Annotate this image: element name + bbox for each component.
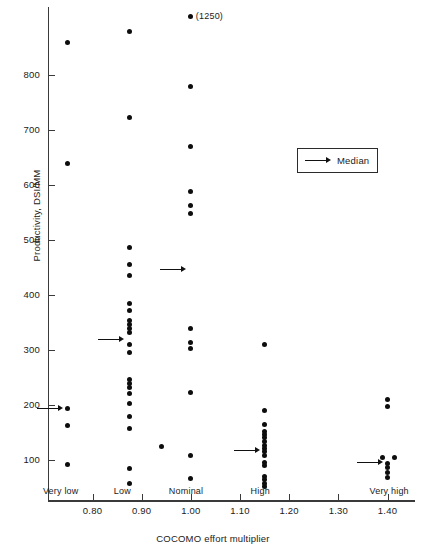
data-point (188, 189, 193, 194)
y-tick-label: 500 (6, 234, 40, 245)
y-tick-mark (49, 295, 55, 296)
data-point (262, 422, 267, 427)
x-tick-mark (338, 494, 339, 500)
median-arrow-very-high (357, 459, 383, 466)
data-point (127, 401, 132, 406)
data-point (127, 350, 132, 355)
y-tick-label: 600 (6, 179, 40, 190)
data-point (188, 346, 193, 351)
data-point (385, 397, 390, 402)
scatter-plot-canvas: Productivity, DSI/MM COCOMO effort multi… (0, 0, 426, 554)
y-tick-label: 300 (6, 344, 40, 355)
data-point (127, 29, 132, 34)
data-point (127, 301, 132, 306)
data-point (385, 470, 390, 475)
data-point (188, 211, 193, 216)
y-tick-label: 400 (6, 289, 40, 300)
y-tick-mark (49, 185, 55, 186)
median-arrow-low (98, 336, 124, 343)
data-point (65, 462, 70, 467)
data-point (65, 406, 70, 411)
data-point (188, 390, 193, 395)
category-label-very-high: Very high (370, 486, 409, 496)
data-point (188, 326, 193, 331)
data-point (127, 481, 132, 486)
data-point (127, 414, 132, 419)
category-label-nominal: Nominal (169, 486, 203, 496)
data-point (127, 342, 132, 347)
x-tick-mark (93, 494, 94, 500)
data-point (188, 340, 193, 345)
data-point (127, 262, 132, 267)
median-arrow-nominal (160, 266, 186, 273)
x-tick-mark (240, 494, 241, 500)
data-point (127, 273, 132, 278)
category-label-low: Low (114, 486, 131, 496)
x-tick-label: 1.10 (220, 505, 260, 516)
x-tick-label: 1.30 (318, 505, 358, 516)
y-tick-mark (49, 350, 55, 351)
data-point (262, 484, 267, 489)
y-tick-mark (49, 75, 55, 76)
data-point (127, 391, 132, 396)
data-point (127, 385, 132, 390)
y-tick-label: 800 (6, 69, 40, 80)
data-point (262, 453, 267, 458)
x-axis-label: COCOMO effort multiplier (0, 533, 426, 544)
data-point (188, 144, 193, 149)
x-tick-label: 0.90 (122, 505, 162, 516)
y-axis-label: Productivity, DSI/MM (31, 136, 42, 296)
y-tick-mark (49, 240, 55, 241)
data-point (127, 308, 132, 313)
data-point (127, 330, 132, 335)
legend-median-label: Median (337, 155, 369, 166)
y-tick-label: 200 (6, 399, 40, 410)
x-axis-line (48, 500, 416, 502)
category-label-very-low: Very low (43, 486, 79, 496)
x-tick-label: 1.20 (269, 505, 309, 516)
data-point (392, 455, 397, 460)
data-point (262, 408, 267, 413)
y-tick-label: 700 (6, 124, 40, 135)
data-point (127, 245, 132, 250)
y-tick-label: 100 (6, 454, 40, 465)
data-point (385, 404, 390, 409)
data-point (188, 84, 193, 89)
annotation-offscale-value: (1250) (196, 11, 223, 21)
data-point (262, 463, 267, 468)
data-point (65, 423, 70, 428)
x-tick-label: 0.80 (73, 505, 113, 516)
category-label-high: High (251, 486, 270, 496)
data-point (127, 115, 132, 120)
median-arrow-very-low (37, 405, 63, 412)
y-axis-line (48, 7, 50, 501)
data-point (188, 203, 193, 208)
data-point-offscale (188, 14, 193, 19)
x-tick-label: 1.00 (171, 505, 211, 516)
median-arrow-high (234, 447, 260, 454)
data-point (65, 40, 70, 45)
data-point (127, 466, 132, 471)
data-point (385, 475, 390, 480)
x-tick-label: 1.40 (368, 505, 408, 516)
data-point (188, 476, 193, 481)
data-point (65, 161, 70, 166)
y-tick-mark (49, 460, 55, 461)
legend-median-arrow-icon (305, 157, 331, 164)
y-tick-mark (49, 130, 55, 131)
data-point (159, 444, 164, 449)
data-point (127, 426, 132, 431)
x-tick-mark (142, 494, 143, 500)
x-tick-mark (289, 494, 290, 500)
data-point (188, 453, 193, 458)
data-point (262, 342, 267, 347)
